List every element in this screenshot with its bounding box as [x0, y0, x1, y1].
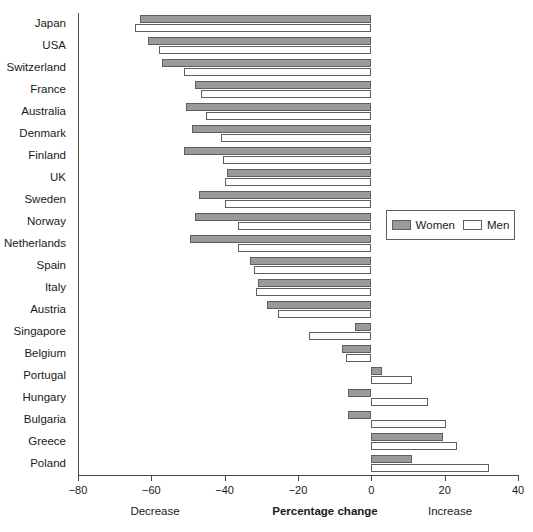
- y-axis-label-france: France: [0, 84, 66, 96]
- bar-women-usa: [148, 37, 372, 45]
- bar-men-hungary: [371, 398, 428, 406]
- bar-men-poland: [371, 464, 488, 472]
- x-tick-3: [298, 475, 299, 481]
- x-tick-label-6: 40: [498, 484, 533, 496]
- x-tick-label-5: 20: [425, 484, 465, 496]
- y-axis-labels: JapanUSASwitzerlandFranceAustraliaDenmar…: [0, 13, 72, 475]
- bar-men-australia: [206, 112, 371, 120]
- y-axis-label-belgium: Belgium: [0, 348, 66, 360]
- y-axis-label-bulgaria: Bulgaria: [0, 414, 66, 426]
- bar-men-portugal: [371, 376, 411, 384]
- bar-women-denmark: [192, 125, 372, 133]
- y-axis-label-austria: Austria: [0, 304, 66, 316]
- bar-women-greece: [371, 433, 443, 441]
- caption-increase: Increase: [400, 505, 500, 517]
- bar-women-finland: [184, 147, 371, 155]
- bar-men-japan: [135, 24, 372, 32]
- bar-men-norway: [238, 222, 372, 230]
- y-axis-label-portugal: Portugal: [0, 370, 66, 382]
- x-tick-2: [225, 475, 226, 481]
- bar-women-bulgaria: [348, 411, 372, 419]
- y-axis-label-spain: Spain: [0, 260, 66, 272]
- x-tick-label-4: 0: [351, 484, 391, 496]
- bar-women-netherlands: [190, 235, 372, 243]
- y-axis-label-poland: Poland: [0, 458, 66, 470]
- bar-women-portugal: [371, 367, 382, 375]
- y-axis-label-netherlands: Netherlands: [0, 238, 66, 250]
- x-tick-label-1: −60: [131, 484, 171, 496]
- chart-figure: JapanUSASwitzerlandFranceAustraliaDenmar…: [0, 0, 533, 532]
- caption-decrease: Decrease: [105, 505, 205, 517]
- y-axis-label-denmark: Denmark: [0, 128, 66, 140]
- legend-label-men: Men: [487, 219, 509, 231]
- bar-women-norway: [195, 213, 371, 221]
- y-axis-label-sweden: Sweden: [0, 194, 66, 206]
- bar-women-poland: [371, 455, 411, 463]
- legend-item-men: Men: [463, 219, 509, 231]
- bar-men-sweden: [225, 200, 372, 208]
- bar-women-italy: [258, 279, 372, 287]
- bar-women-japan: [140, 15, 371, 23]
- bar-men-belgium: [346, 354, 372, 362]
- bar-women-sweden: [199, 191, 371, 199]
- bar-women-france: [195, 81, 371, 89]
- bar-men-netherlands: [238, 244, 372, 252]
- x-tick-label-3: −20: [278, 484, 318, 496]
- legend-swatch-women-icon: [392, 220, 411, 230]
- y-axis-label-usa: USA: [0, 40, 66, 52]
- bar-men-finland: [223, 156, 372, 164]
- x-tick-label-0: −80: [58, 484, 98, 496]
- bar-men-france: [201, 90, 372, 98]
- x-tick-1: [151, 475, 152, 481]
- bar-women-singapore: [355, 323, 372, 331]
- bar-men-bulgaria: [371, 420, 446, 428]
- y-axis-label-greece: Greece: [0, 436, 66, 448]
- bar-women-australia: [186, 103, 371, 111]
- bar-women-austria: [267, 301, 372, 309]
- x-tick-5: [445, 475, 446, 481]
- legend-label-women: Women: [416, 219, 455, 231]
- bar-women-hungary: [348, 389, 372, 397]
- bar-men-spain: [254, 266, 371, 274]
- y-axis-label-norway: Norway: [0, 216, 66, 228]
- plot-area: [78, 13, 518, 475]
- chart-legend: Women Men: [386, 210, 515, 240]
- bar-men-greece: [371, 442, 457, 450]
- y-axis-label-hungary: Hungary: [0, 392, 66, 404]
- x-axis-title: Percentage change: [240, 505, 410, 517]
- bar-men-usa: [159, 46, 372, 54]
- bar-women-uk: [227, 169, 372, 177]
- y-axis-label-switzerland: Switzerland: [0, 62, 66, 74]
- bar-women-spain: [250, 257, 371, 265]
- y-axis-label-australia: Australia: [0, 106, 66, 118]
- legend-swatch-men-icon: [463, 220, 482, 230]
- x-tick-6: [518, 475, 519, 481]
- legend-item-women: Women: [392, 219, 455, 231]
- bar-women-belgium: [342, 345, 371, 353]
- y-axis-label-uk: UK: [0, 172, 66, 184]
- x-tick-4: [371, 475, 372, 481]
- bar-men-italy: [256, 288, 372, 296]
- y-axis-label-finland: Finland: [0, 150, 66, 162]
- bar-men-denmark: [221, 134, 371, 142]
- y-axis-label-italy: Italy: [0, 282, 66, 294]
- bar-men-singapore: [309, 332, 371, 340]
- bar-men-austria: [278, 310, 372, 318]
- bar-women-switzerland: [162, 59, 371, 67]
- y-axis-label-singapore: Singapore: [0, 326, 66, 338]
- bar-men-uk: [225, 178, 372, 186]
- x-tick-0: [78, 475, 79, 481]
- x-tick-label-2: −40: [205, 484, 245, 496]
- y-axis-label-japan: Japan: [0, 18, 66, 30]
- bar-men-switzerland: [184, 68, 371, 76]
